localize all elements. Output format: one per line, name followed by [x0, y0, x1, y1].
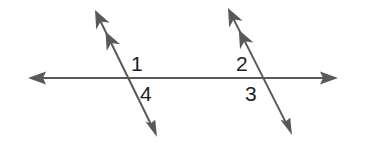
angle-label-3: 3: [245, 83, 257, 104]
angle-label-1: 1: [131, 53, 143, 74]
right-transversal-bottom-arrowhead: [280, 118, 292, 135]
angle-label-2: 2: [236, 53, 248, 74]
geometry-canvas: [0, 0, 366, 160]
right-transversal-top-arrowhead-inner: [239, 30, 254, 50]
left-transversal-bottom-arrowhead: [145, 120, 157, 137]
geometry-diagram: 1 4 2 3: [0, 0, 366, 160]
angle-label-4: 4: [140, 83, 152, 104]
